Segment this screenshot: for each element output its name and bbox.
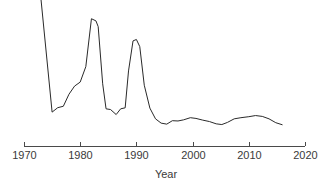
x-axis-tick-label: 1990 <box>124 149 148 161</box>
x-axis-tick-label: 1980 <box>68 149 92 161</box>
line-chart-plot: 197019801990200020102020 Year <box>0 0 334 187</box>
x-axis-tick-label: 1970 <box>12 149 36 161</box>
x-axis-tick-label: 2020 <box>293 149 317 161</box>
x-axis-tick-label: 2000 <box>181 149 205 161</box>
chart-container: 197019801990200020102020 Year <box>0 0 334 187</box>
series-group <box>41 0 283 125</box>
x-axis-title: Year <box>155 168 178 180</box>
x-axis-ticks <box>25 142 306 146</box>
x-axis-tick-label: 2010 <box>237 149 261 161</box>
data-series-line <box>41 0 283 125</box>
x-axis: 197019801990200020102020 <box>12 142 317 161</box>
x-axis-tick-labels: 197019801990200020102020 <box>12 149 317 161</box>
